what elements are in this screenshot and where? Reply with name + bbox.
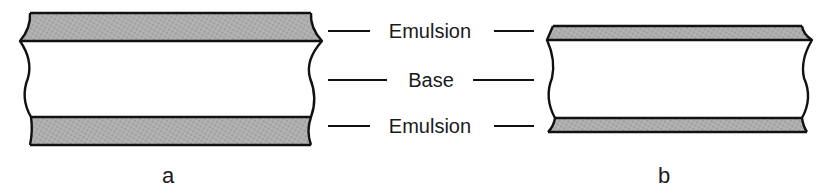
layer-labels: Emulsion Base Emulsion [328, 20, 534, 137]
label-emulsion-bottom: Emulsion [389, 115, 471, 137]
base-layer-b [547, 40, 812, 118]
panel-a: a [20, 13, 322, 188]
panel-b: b [547, 26, 812, 188]
base-layer-a [20, 41, 322, 117]
emulsion-layer-top-b [547, 26, 812, 40]
label-base: Base [408, 69, 454, 91]
panel-caption-b: b [658, 163, 670, 188]
emulsion-layer-bottom-a [30, 117, 311, 145]
label-emulsion-top: Emulsion [389, 20, 471, 42]
emulsion-layer-top-a [20, 13, 322, 41]
film-layer-diagram: a b Emulsion Base Emulsion [0, 0, 832, 189]
panel-caption-a: a [162, 163, 175, 188]
emulsion-layer-bottom-b [548, 118, 807, 132]
